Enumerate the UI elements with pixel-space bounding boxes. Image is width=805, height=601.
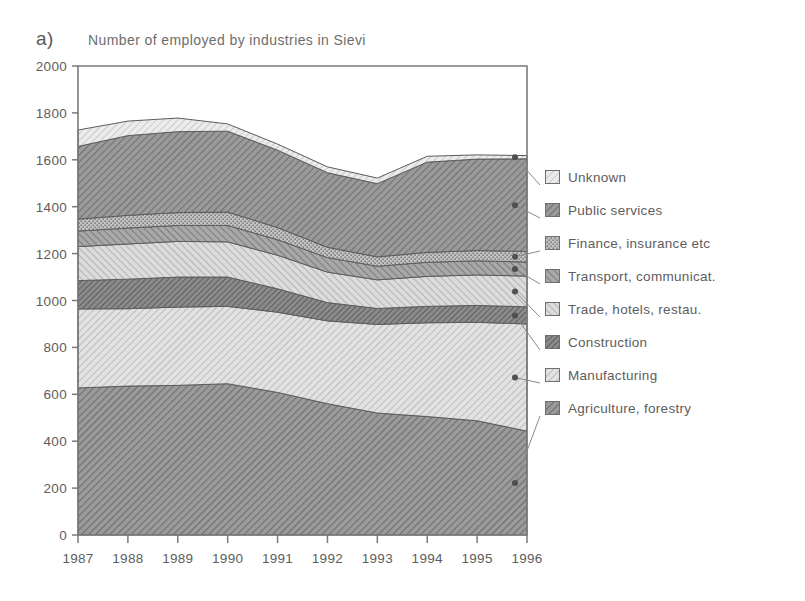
x-tick-label: 1991	[262, 551, 293, 566]
y-tick-label: 1400	[36, 200, 67, 215]
legend-item[interactable]: Manufacturing	[545, 366, 657, 384]
y-tick-label: 1200	[36, 247, 67, 262]
legend-swatch-icon	[545, 203, 560, 217]
y-tick-label: 800	[44, 340, 67, 355]
legend-item[interactable]: Agriculture, forestry	[545, 399, 691, 417]
legend-anchor-marker	[512, 288, 518, 294]
y-tick-label: 600	[44, 387, 67, 402]
legend-label: Trade, hotels, restau.	[568, 302, 702, 317]
legend-item[interactable]: Transport, communicat.	[545, 267, 716, 285]
y-tick-label: 0	[59, 528, 67, 543]
x-tick-label: 1987	[62, 551, 93, 566]
x-tick-label: 1989	[162, 551, 193, 566]
x-tick-label: 1994	[412, 551, 443, 566]
legend-anchor-marker	[512, 375, 518, 381]
legend-swatch-icon	[545, 170, 560, 184]
chart-container: a) Number of employed by industries in S…	[0, 0, 805, 601]
y-tick-label: 200	[44, 481, 67, 496]
legend-anchor-marker	[512, 254, 518, 260]
legend-swatch-icon	[545, 401, 560, 415]
legend-label: Unknown	[568, 170, 626, 185]
legend-swatch-icon	[545, 335, 560, 349]
legend-label: Transport, communicat.	[568, 269, 716, 284]
x-tick-label: 1996	[511, 551, 542, 566]
legend-item[interactable]: Unknown	[545, 168, 626, 186]
legend-item[interactable]: Trade, hotels, restau.	[545, 300, 702, 318]
legend-item[interactable]: Construction	[545, 333, 647, 351]
x-tick-label: 1992	[312, 551, 343, 566]
legend-label: Agriculture, forestry	[568, 401, 691, 416]
legend-swatch-icon	[545, 368, 560, 382]
y-tick-label: 400	[44, 434, 67, 449]
legend-anchor-marker	[512, 312, 518, 318]
x-tick-label: 1990	[212, 551, 243, 566]
legend-label: Public services	[568, 203, 663, 218]
legend-item[interactable]: Finance, insurance etc	[545, 234, 710, 252]
legend-anchor-marker	[512, 266, 518, 272]
y-tick-label: 2000	[36, 59, 67, 74]
legend-label: Manufacturing	[568, 368, 657, 383]
y-tick-label: 1800	[36, 106, 67, 121]
legend-swatch-icon	[545, 236, 560, 250]
x-tick-label: 1993	[362, 551, 393, 566]
x-axis-ticks: 1987198819891990199119921993199419951996	[62, 535, 542, 566]
x-tick-label: 1988	[112, 551, 143, 566]
legend-anchor-marker	[512, 202, 518, 208]
area-layers	[78, 118, 527, 535]
legend-label: Construction	[568, 335, 647, 350]
legend-swatch-icon	[545, 269, 560, 283]
legend-swatch-icon	[545, 302, 560, 316]
y-axis-ticks: 0200400600800100012001400160018002000	[36, 59, 78, 543]
y-tick-label: 1600	[36, 153, 67, 168]
x-tick-label: 1995	[461, 551, 492, 566]
legend-anchor-marker	[512, 154, 518, 160]
legend-label: Finance, insurance etc	[568, 236, 710, 251]
legend-anchor-marker	[512, 480, 518, 486]
y-tick-label: 1000	[36, 294, 67, 309]
legend-item[interactable]: Public services	[545, 201, 663, 219]
